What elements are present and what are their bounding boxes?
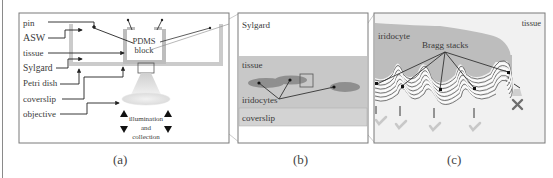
panel-b: Sylgard tissue iridocytes coverslip [238, 13, 368, 143]
and-label: and [141, 124, 152, 132]
pin-label: pin [23, 18, 35, 28]
caption-a: (a) [113, 152, 127, 168]
tissue-label-b: tissue [242, 60, 263, 70]
block-label: block [135, 45, 155, 55]
tissue-label-c: tissue [522, 18, 542, 28]
sylgard-label-b: Sylgard [242, 20, 270, 30]
iridocyte-label: iridocyte [378, 31, 410, 41]
collection-label: collection [132, 133, 160, 141]
coverslip-label: coverslip [23, 94, 56, 104]
tissue-label: tissue [23, 48, 44, 58]
objective-label: objective [23, 109, 56, 119]
caption-b: (b) [293, 152, 308, 168]
asw-label: ASW [23, 32, 46, 43]
petri-dish-label: Petri dish [23, 78, 58, 88]
iridocytes-label: iridocytes [242, 95, 278, 105]
illumination-label: illumination [129, 115, 164, 123]
figure-canvas: PDMS block illumination and collection p… [0, 0, 553, 178]
coverslip-label-b: coverslip [242, 113, 275, 123]
caption-c: (c) [447, 152, 461, 168]
sylgard-label: Sylgard [23, 63, 53, 73]
bragg-stacks-label: Bragg stacks [422, 40, 469, 50]
panel-c: tissue iridocyte Bragg stacks [374, 13, 545, 143]
panel-a: PDMS block illumination and collection p… [19, 13, 229, 143]
objective-lens-icon [122, 93, 170, 105]
